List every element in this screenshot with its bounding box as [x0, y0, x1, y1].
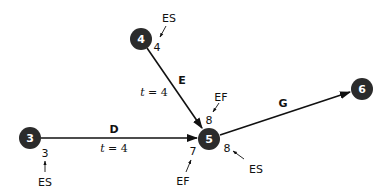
- node4-es-pointer: [160, 26, 166, 37]
- node4-es-tag: ES: [162, 12, 176, 25]
- edge-d-duration-label: t = 4: [100, 142, 128, 155]
- node5-es-tag: ES: [249, 163, 263, 176]
- node-5: 5: [198, 128, 220, 150]
- edge-d-activity-label: D: [109, 123, 118, 136]
- edgeD-ef-tag: EF: [176, 175, 189, 188]
- node-3: 3: [19, 127, 41, 149]
- node5-es-pointer: [233, 151, 244, 159]
- node-4-label: 4: [137, 33, 145, 46]
- edgeE-ef-value: 8: [206, 114, 213, 127]
- edgeD-ef-annotation: 7 EF: [176, 145, 196, 188]
- edge-e-duration-value: = 4: [145, 86, 168, 99]
- node3-es-value: 3: [42, 147, 49, 160]
- edge-e: E t = 4: [140, 48, 202, 128]
- edge-g-activity-label: G: [278, 97, 287, 110]
- node-3-label: 3: [26, 132, 34, 145]
- node3-es-tag: ES: [38, 176, 52, 189]
- edgeE-ef-annotation: EF 8: [206, 91, 228, 127]
- node4-es-value: 4: [154, 41, 161, 54]
- edge-e-duration-label: t = 4: [140, 86, 168, 99]
- edge-d: D t = 4: [41, 123, 197, 155]
- edge-d-duration-value: = 4: [105, 142, 128, 155]
- node-5-label: 5: [205, 133, 213, 146]
- edgeE-ef-tag: EF: [214, 91, 227, 104]
- node5-es-annotation: 8 ES: [224, 142, 263, 176]
- node5-es-value: 8: [224, 142, 231, 155]
- edgeD-ef-pointer: [186, 160, 191, 172]
- node-6-label: 6: [358, 83, 366, 96]
- edgeD-ef-value: 7: [190, 145, 197, 158]
- edge-e-activity-label: E: [178, 74, 186, 87]
- node3-es-annotation: 3 ES: [38, 147, 52, 189]
- node-6: 6: [351, 78, 373, 100]
- node-4: 4: [130, 28, 152, 50]
- edge-g: G: [220, 92, 350, 135]
- network-diagram: D t = 4 E t = 4 G 3 4 5 6 3 ES ES 4: [0, 0, 389, 193]
- edgeE-ef-pointer: [213, 103, 219, 112]
- node4-es-annotation: ES 4: [154, 12, 176, 54]
